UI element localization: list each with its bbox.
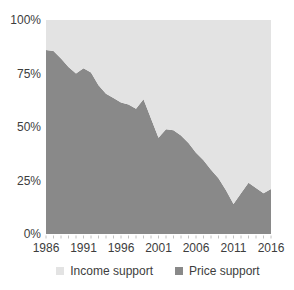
y-tick-label: 50% [17, 120, 41, 134]
chart-legend: Income support Price support [40, 264, 276, 278]
legend-label-income-support: Income support [70, 264, 153, 278]
legend-label-price-support: Price support [189, 264, 260, 278]
x-tick-label: 1991 [70, 241, 97, 255]
income-support-swatch-icon [56, 267, 64, 275]
price-support-swatch-icon [175, 267, 183, 275]
y-tick-label: 25% [17, 174, 41, 188]
legend-item-price-support: Price support [175, 264, 260, 278]
stacked-area-chart: 100%75%50%25%0%1986199119962001200620112… [0, 0, 294, 290]
x-tick-label: 1996 [108, 241, 135, 255]
x-tick-label: 2011 [221, 241, 247, 255]
x-tick-label: 1986 [33, 241, 60, 255]
y-tick-label: 100% [10, 13, 41, 27]
y-tick-label: 0% [24, 227, 42, 241]
x-tick-label: 2001 [145, 241, 172, 255]
legend-item-income-support: Income support [56, 264, 153, 278]
y-tick-label: 75% [17, 67, 41, 81]
x-tick-label: 2006 [183, 241, 210, 255]
chart-screenshot: 100%75%50%25%0%1986199119962001200620112… [0, 0, 294, 290]
x-tick-label: 2016 [258, 241, 285, 255]
